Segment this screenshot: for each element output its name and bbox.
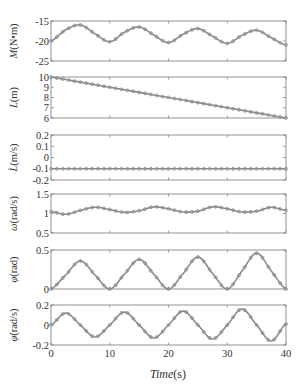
y-tick-label: -25	[35, 56, 49, 67]
y-tick-label: 0.2	[36, 130, 49, 141]
x-tick-label: 30	[222, 348, 233, 359]
y-tick-label: -0.2	[32, 340, 49, 351]
subplot-M: -15-20-25M(N•m)	[8, 16, 288, 67]
subplot-phidot: 0.20-0.2φ̇(rad/s)	[8, 300, 288, 351]
y-tick-label: 0.5	[36, 228, 49, 239]
subplot-L: 109876L(m)	[8, 72, 288, 124]
subplot-Ldot: 0.20.10-0.1-0.2L̇(m/s)	[8, 130, 288, 186]
x-tick-label: 20	[163, 348, 174, 359]
y-tick-label: -0.1	[32, 163, 49, 174]
subplot-omega: 1.510.5ω(rad/s)	[8, 189, 288, 239]
plot-frame	[51, 135, 286, 180]
y-axis-label: φ̇(rad/s)	[8, 308, 20, 342]
x-tick-label: 10	[105, 348, 116, 359]
figure: -15-20-25M(N•m)109876L(m)0.20.10-0.1-0.2…	[0, 0, 302, 387]
y-tick-label: -0.2	[32, 175, 49, 186]
y-tick-label: 0.1	[36, 141, 49, 152]
subplots-group: -15-20-25M(N•m)109876L(m)0.20.10-0.1-0.2…	[8, 16, 288, 351]
y-tick-label: -20	[35, 36, 49, 47]
y-tick-label: -15	[35, 16, 49, 27]
y-axis-label: ω(rad/s)	[8, 196, 20, 231]
data-line-phidot	[51, 309, 286, 341]
y-tick-label: 1	[44, 208, 49, 219]
y-axis-label: L(m)	[8, 87, 20, 110]
y-axis-label: M(N•m)	[8, 23, 20, 60]
data-line-L	[51, 77, 286, 118]
data-line-phi	[51, 253, 286, 289]
x-tick-label: 40	[281, 348, 292, 359]
y-tick-label: 0.2	[36, 300, 49, 311]
y-tick-label: 0	[44, 284, 49, 295]
x-tick-label: 0	[48, 348, 53, 359]
y-tick-label: 0	[44, 152, 49, 163]
x-axis-label: Time(s)	[150, 367, 186, 381]
y-tick-label: 0	[44, 320, 49, 331]
y-axis-label: φ(rad)	[8, 256, 20, 283]
y-tick-label: 0.5	[36, 245, 49, 256]
data-line-M	[51, 25, 286, 45]
y-tick-label: 6	[44, 113, 49, 124]
subplot-phi: 0.50φ(rad)	[8, 245, 288, 295]
x-axis: 010203040	[48, 348, 291, 359]
y-tick-label: 1.5	[36, 189, 49, 200]
y-axis-label: L̇(m/s)	[8, 143, 20, 173]
